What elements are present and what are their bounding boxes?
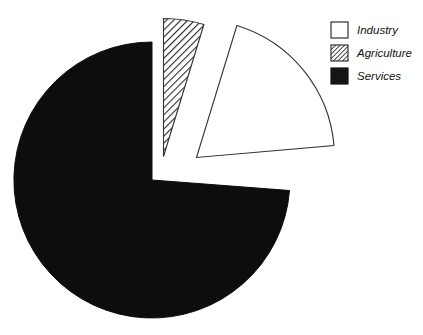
legend-label-industry: Industry	[357, 24, 399, 36]
legend-swatch-services	[331, 68, 348, 84]
pie-chart-svg: Industry Agriculture Services	[0, 0, 423, 335]
pie-chart-figure: Industry Agriculture Services	[0, 0, 423, 335]
legend-label-services: Services	[357, 70, 401, 82]
legend-swatch-agriculture	[331, 45, 348, 61]
legend-swatch-industry	[331, 22, 348, 38]
legend-label-agriculture: Agriculture	[356, 47, 412, 59]
